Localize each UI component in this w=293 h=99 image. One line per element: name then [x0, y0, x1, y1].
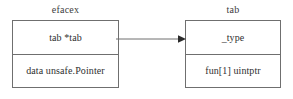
entity-box-efacex[interactable]: tab *tab data unsafe.Pointer — [12, 20, 119, 88]
pointer-arrow-connector — [116, 28, 188, 50]
entity-field-row[interactable]: fun[1] uintptr — [186, 54, 280, 88]
arrowhead-icon — [178, 35, 186, 43]
entity-field-row[interactable]: data unsafe.Pointer — [13, 54, 118, 88]
entity-title-tab: tab — [185, 4, 281, 16]
entity-box-tab[interactable]: _type fun[1] uintptr — [185, 20, 281, 88]
entity-title-efacex: efacex — [12, 4, 119, 16]
entity-field-row[interactable]: tab *tab — [13, 21, 118, 54]
entity-field-row[interactable]: _type — [186, 21, 280, 54]
struct-relationship-diagram: efacex tab *tab data unsafe.Pointer tab … — [0, 0, 293, 99]
